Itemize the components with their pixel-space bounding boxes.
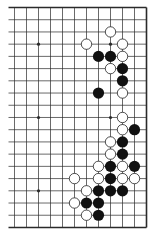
white-stone-icon [81, 39, 91, 49]
white-stone-icon [81, 186, 91, 196]
black-stone-icon [105, 173, 116, 184]
stones [69, 27, 140, 221]
white-stone-icon [117, 39, 127, 49]
white-stone-icon [93, 161, 103, 171]
white-stone-icon [129, 173, 139, 183]
white-stone-icon [117, 125, 127, 135]
white-stone-icon [105, 149, 115, 159]
star-point-icon [37, 116, 40, 119]
black-stone-icon [81, 197, 92, 208]
white-stone-icon [117, 88, 127, 98]
black-stone-icon [105, 51, 116, 62]
white-stone-icon [117, 112, 127, 122]
go-board-diagram [0, 0, 153, 237]
black-stone-icon [93, 197, 104, 208]
black-stone-icon [93, 210, 104, 221]
white-stone-icon [117, 51, 127, 61]
black-stone-icon [117, 75, 128, 86]
black-stone-icon [129, 161, 140, 172]
white-stone-icon [105, 137, 115, 147]
black-stone-icon [93, 185, 104, 196]
black-stone-icon [105, 185, 116, 196]
star-point-icon [109, 43, 112, 46]
black-stone-icon [117, 185, 128, 196]
star-point-icon [109, 116, 112, 119]
black-stone-icon [93, 87, 104, 98]
black-stone-icon [93, 51, 104, 62]
star-point-icon [37, 189, 40, 192]
white-stone-icon [105, 27, 115, 37]
star-point-icon [37, 43, 40, 46]
black-stone-icon [117, 149, 128, 160]
white-stone-icon [69, 173, 79, 183]
black-stone-icon [117, 136, 128, 147]
black-stone-icon [105, 161, 116, 172]
white-stone-icon [81, 210, 91, 220]
white-stone-icon [93, 173, 103, 183]
white-stone-icon [117, 173, 127, 183]
white-stone-icon [105, 63, 115, 73]
white-stone-icon [69, 198, 79, 208]
white-stone-icon [117, 161, 127, 171]
black-stone-icon [129, 124, 140, 135]
black-stone-icon [117, 63, 128, 74]
